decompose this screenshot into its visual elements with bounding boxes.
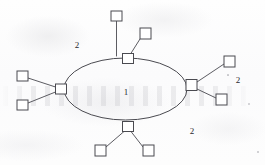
leaf-node-bottom-left [95,145,106,156]
leaf-node-left-lower [17,100,28,110]
hub-node-right [186,80,197,91]
topology-canvas [0,0,265,165]
connector-left-lower [28,92,56,103]
label-level-2-right: 2 [236,76,241,85]
connector-right-lower [197,89,216,98]
leaf-node-bottom-right [143,145,154,156]
connector-bottom-left [106,132,124,148]
leaf-node-right-lower [216,94,227,105]
hub-node-top [123,54,134,64]
node-layer [17,11,235,156]
connector-bottom-right [131,132,143,148]
leaf-node-right-upper [224,56,235,67]
label-level-2-bottom: 2 [190,127,195,136]
leaf-node-left-upper [17,71,28,81]
network-topology-figure: 1222 [0,0,265,165]
connector-left-upper [28,78,56,87]
leaf-node-top-upper [111,11,122,21]
hub-node-left [56,84,67,94]
label-level-2-topleft: 2 [75,41,80,50]
label-level-1-core: 1 [124,88,129,97]
hub-node-bottom [123,122,134,132]
connector-right-upper [197,64,224,82]
leaf-node-top-right [140,28,151,39]
